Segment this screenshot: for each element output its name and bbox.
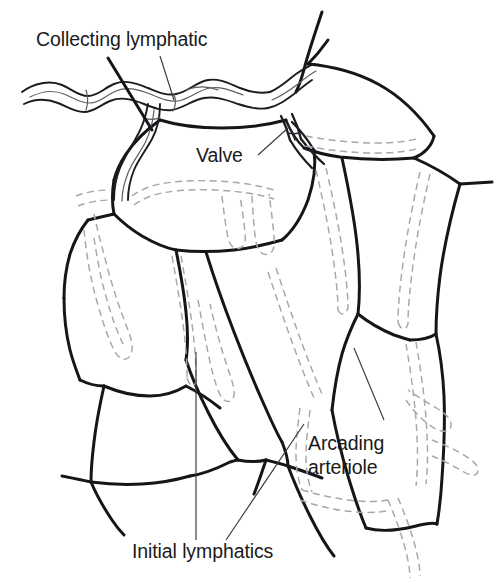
label-initial-lymphatics: Initial lymphatics [132, 540, 274, 562]
arteriole-right-edge-node [460, 182, 492, 184]
figure-background [0, 0, 500, 586]
anatomical-line-drawing: Collecting lymphatic Valve Arcading arte… [0, 0, 500, 586]
lymphatic-anatomy-figure: Collecting lymphatic Valve Arcading arte… [0, 0, 500, 586]
label-arcading-arteriole-line1: Arcading [308, 432, 384, 454]
valve-commissure [288, 133, 299, 134]
label-arcading-arteriole-line2: arteriole [308, 456, 378, 478]
label-collecting-lymphatic: Collecting lymphatic [36, 28, 208, 50]
label-valve: Valve [196, 144, 243, 166]
arteriole-center-fold-right [238, 460, 266, 462]
